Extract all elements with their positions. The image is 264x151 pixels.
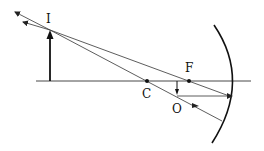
label-focus: F: [185, 61, 193, 75]
ray-through-focus: [50, 30, 232, 97]
center-point: [145, 79, 149, 83]
label-center: C: [142, 87, 151, 101]
label-object: O: [172, 102, 182, 116]
ray-extension-1: [15, 12, 50, 30]
focus-point: [187, 79, 191, 83]
ray-through-center: [50, 30, 222, 121]
object-arrow-head: [175, 89, 179, 95]
ray-diagram: I C F O: [0, 0, 264, 151]
concave-mirror: [212, 25, 233, 143]
label-image: I: [46, 12, 51, 26]
